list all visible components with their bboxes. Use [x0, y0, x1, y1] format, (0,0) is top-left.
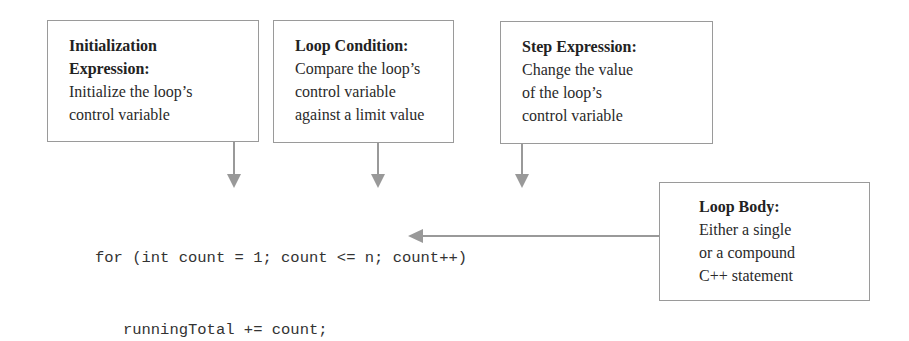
code-line-header: for (int count = 1; count <= n; count++) [95, 246, 467, 270]
step-desc-2: of the loop’s [522, 81, 694, 104]
init-title-1: Initialization [69, 34, 240, 57]
step-expression-box: Step Expression: Change the value of the… [500, 21, 713, 144]
init-expression-box: Initialization Expression: Initialize th… [47, 20, 259, 142]
body-desc-3: C++ statement [699, 264, 851, 287]
condition-title: Loop Condition: [295, 34, 435, 57]
arrow-down-icon [371, 174, 385, 188]
body-title: Loop Body: [699, 195, 851, 218]
condition-desc-3: against a limit value [295, 103, 435, 126]
condition-desc-1: Compare the loop’s [295, 57, 435, 80]
step-desc-1: Change the value [522, 58, 694, 81]
loop-condition-box: Loop Condition: Compare the loop’s contr… [273, 20, 454, 143]
condition-desc-2: control variable [295, 80, 435, 103]
step-title: Step Expression: [522, 35, 694, 58]
code-line-body: runningTotal += count; [95, 318, 467, 341]
loop-body-box: Loop Body: Either a single or a compound… [659, 182, 870, 301]
init-desc-1: Initialize the loop’s [69, 80, 240, 103]
for-loop-code: for (int count = 1; count <= n; count++)… [95, 198, 467, 341]
init-desc-2: control variable [69, 103, 240, 126]
arrow-down-icon [515, 174, 529, 188]
step-desc-3: control variable [522, 104, 694, 127]
body-desc-2: or a compound [699, 241, 851, 264]
init-title-2: Expression: [69, 57, 240, 80]
body-desc-1: Either a single [699, 218, 851, 241]
arrow-down-icon [227, 174, 241, 188]
